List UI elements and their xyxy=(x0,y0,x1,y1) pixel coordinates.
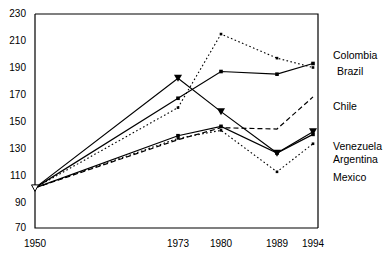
line-chart: 230 210 190 170 150 130 110 90 70 1950 1… xyxy=(0,0,388,259)
plot-area xyxy=(0,0,388,259)
